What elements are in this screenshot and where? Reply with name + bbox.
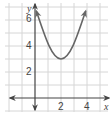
parabola-graph: 2 4 2 4 6 x y xyxy=(0,0,112,118)
x-axis-label: x xyxy=(103,101,109,112)
y-tick-label-6: 6 xyxy=(26,13,32,24)
y-axis-label: y xyxy=(26,3,32,14)
y-tick-label-2: 2 xyxy=(26,66,32,77)
x-tick-label-4: 4 xyxy=(84,101,90,112)
y-tick-label-4: 4 xyxy=(26,40,32,51)
x-tick-label-2: 2 xyxy=(58,101,64,112)
